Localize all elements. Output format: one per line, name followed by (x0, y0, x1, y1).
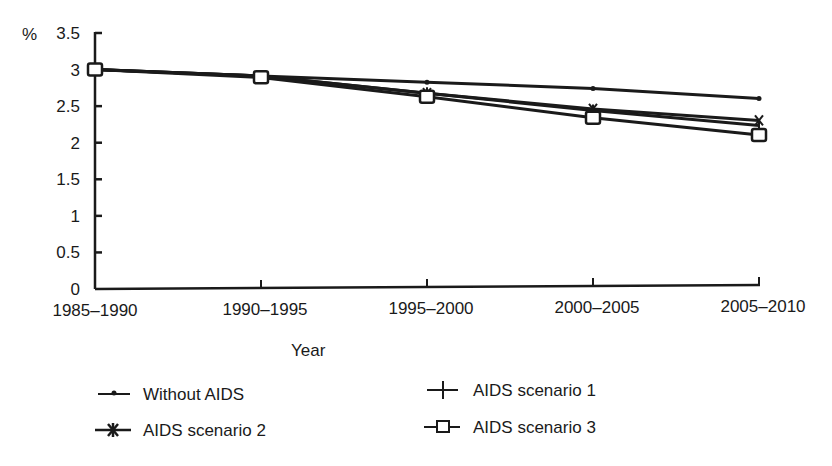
dot-icon (757, 96, 762, 101)
legend-item-aids-scenario-1: AIDS scenario 1 (427, 381, 596, 400)
legend-label: AIDS scenario 3 (473, 418, 596, 437)
legend-label: Without AIDS (143, 385, 244, 404)
y-tick-label: 3.5 (56, 24, 80, 43)
dot-icon (112, 391, 117, 396)
y-tick-label: 0 (71, 280, 80, 299)
x-tick-label: 2005–2010 (720, 297, 805, 316)
y-tick-label: 2.5 (56, 97, 80, 116)
dot-icon (591, 86, 596, 91)
x-axis-ticks: 1985–19901990–19951995–20002000–20052005… (52, 277, 805, 320)
legend-label: AIDS scenario 1 (473, 381, 596, 400)
legend-item-aids-scenario-3: AIDS scenario 3 (424, 418, 596, 437)
square-icon (752, 129, 766, 141)
y-tick-label: 2 (71, 134, 80, 153)
y-tick-label: 1 (71, 207, 80, 226)
x-tick-label: 1990–1995 (222, 300, 307, 319)
line-chart: % 00.511.522.533.5 1985–19901990–1995199… (0, 0, 832, 466)
square-icon (88, 64, 102, 76)
x-axis-title: Year (291, 341, 326, 360)
y-axis-unit: % (22, 25, 37, 44)
x-tick-label: 2000–2005 (554, 298, 639, 317)
square-icon (420, 91, 434, 103)
legend-item-aids-scenario-2: AIDS scenario 2 (95, 421, 266, 440)
square-icon (437, 421, 449, 432)
y-tick-label: 0.5 (56, 243, 80, 262)
x-tick-label: 1995–2000 (388, 299, 473, 318)
y-tick-label: 3 (71, 61, 80, 80)
square-icon (586, 112, 600, 124)
dot-icon (425, 80, 430, 85)
legend-label: AIDS scenario 2 (143, 421, 266, 440)
x-tick-label: 1985–1990 (52, 301, 137, 320)
axes (95, 32, 760, 289)
y-tick-label: 1.5 (56, 170, 80, 189)
square-icon (254, 71, 268, 83)
legend: Without AIDS AIDS scenario 1 AIDS scenar… (95, 381, 596, 440)
legend-item-without-aids: Without AIDS (98, 385, 244, 404)
